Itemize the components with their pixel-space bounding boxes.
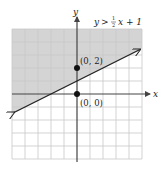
x-axis-label: x (153, 89, 158, 99)
svg-text:x + 1: x + 1 (118, 17, 142, 27)
svg-text:2: 2 (112, 22, 115, 28)
inequality-graph: x y (0, 2) (0, 0) y > 1 2 x + 1 (0, 0, 165, 172)
y-axis-label: y (72, 7, 79, 17)
svg-text:>: > (101, 17, 109, 27)
point-0-0-label: (0, 0) (80, 98, 103, 108)
inequality-label: y > 1 2 x + 1 (93, 15, 142, 28)
point-0-2-label: (0, 2) (80, 56, 103, 66)
svg-text:y: y (93, 17, 100, 27)
point-0-0 (74, 91, 80, 97)
svg-text:1: 1 (112, 15, 115, 21)
